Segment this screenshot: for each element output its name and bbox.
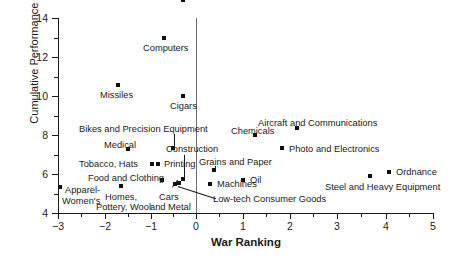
label-medical: Medical	[104, 140, 136, 151]
x-tick-minor-4-5	[409, 213, 410, 217]
x-tick-0	[196, 213, 197, 219]
label-bikes: Bikes and Precision Equipment	[79, 124, 208, 135]
x-tick-minor-1-5	[266, 213, 267, 217]
y-tick-label-8: 8	[0, 129, 48, 141]
x-tick-label-neg3: −3	[38, 220, 78, 232]
leader-grains	[215, 166, 216, 172]
label-printing: Printing	[164, 159, 196, 170]
point-photo	[280, 146, 284, 150]
y-tick-label-10: 10	[0, 90, 48, 102]
label-apparel-line2: Women's	[62, 196, 100, 207]
zero-reference-line	[196, 18, 197, 214]
y-tick-label-6: 6	[0, 168, 48, 180]
x-tick-neg1	[151, 213, 152, 219]
label-cars-line2: and Metal	[150, 202, 191, 213]
label-cars-line1: Cars	[159, 192, 179, 203]
y-tick-label-14: 14	[0, 12, 48, 24]
label-missiles: Missiles	[100, 90, 133, 101]
point-cigars	[181, 94, 185, 98]
label-cigars: Cigars	[170, 101, 197, 112]
y-tick-minor-7	[54, 155, 58, 156]
label-ordnance: Ordnance	[396, 167, 437, 178]
leader-bikes	[174, 134, 175, 149]
y-tick-minor-9	[54, 116, 58, 117]
x-tick-label-0: 0	[176, 220, 216, 232]
x-tick-1	[243, 213, 244, 219]
point-tobacco	[150, 162, 154, 166]
y-tick-12	[52, 57, 58, 58]
label-apparel-line1: Apparel-	[65, 185, 100, 196]
y-tick-label-4: 4	[0, 207, 48, 219]
point-lowtech	[177, 181, 181, 185]
label-food: Food and Clothing	[88, 173, 164, 184]
x-axis-title: War Ranking	[58, 236, 434, 248]
x-tick-minor-neg0-5	[173, 213, 174, 217]
x-tick-neg2	[105, 213, 106, 219]
y-tick-8	[52, 135, 58, 136]
point-printing	[156, 162, 160, 166]
x-tick-minor-3-5	[361, 213, 362, 217]
x-tick-5	[433, 213, 434, 219]
y-tick-10	[52, 96, 58, 97]
label-lowtech: Low-tech Consumer Goods	[213, 194, 326, 205]
point-steel	[368, 174, 372, 178]
x-tick-neg3	[58, 213, 59, 219]
point-apparel	[58, 185, 62, 189]
x-tick-label-neg1: −1	[131, 220, 171, 232]
point-machines	[208, 182, 212, 186]
leader-construction	[184, 155, 185, 179]
x-tick-label-5: 5	[413, 220, 453, 232]
x-tick-4	[386, 213, 387, 219]
x-tick-3	[337, 213, 338, 219]
y-axis-title: Cumulative Performance Gain	[28, 0, 40, 140]
scatter-chart-figure: 14 12 10 8 6 4 −3 −2 −1 0 1 2 3 4 5 Cumu…	[0, 0, 459, 263]
label-computers: Computers	[143, 43, 188, 54]
x-tick-label-3: 3	[317, 220, 357, 232]
point-homes	[119, 184, 123, 188]
label-tobacco: Tobacco, Hats	[79, 159, 138, 170]
y-tick-14	[52, 18, 58, 19]
y-tick-minor-5	[54, 194, 58, 195]
label-homes-line2: Pottery, Wool	[96, 202, 151, 213]
y-tick-minor-13	[54, 38, 58, 39]
label-machines: Machines	[217, 179, 257, 190]
x-tick-minor-0-5	[219, 213, 220, 217]
x-tick-2	[290, 213, 291, 219]
point-missiles	[116, 83, 120, 87]
label-photo: Photo and Electronics	[289, 144, 379, 155]
x-tick-label-2: 2	[270, 220, 310, 232]
y-tick-label-12: 12	[0, 51, 48, 63]
y-tick-minor-11	[54, 77, 58, 78]
point-ordnance	[387, 170, 391, 174]
y-tick-6	[52, 174, 58, 175]
label-steel: Steel and Heavy Equipment	[325, 182, 440, 193]
x-tick-minor-neg1-5	[128, 213, 129, 217]
x-tick-minor-2-5	[313, 213, 314, 217]
x-tick-label-neg2: −2	[85, 220, 125, 232]
x-tick-label-4: 4	[366, 220, 406, 232]
label-aircraft: Aircraft and Communications	[258, 118, 377, 129]
label-homes-line1: Homes,	[105, 192, 137, 203]
x-tick-label-1: 1	[223, 220, 263, 232]
label-grains: Grains and Paper	[199, 157, 272, 168]
point-computers	[162, 36, 166, 40]
x-tick-minor-neg2-5	[81, 213, 82, 217]
x-axis-line	[58, 213, 434, 214]
